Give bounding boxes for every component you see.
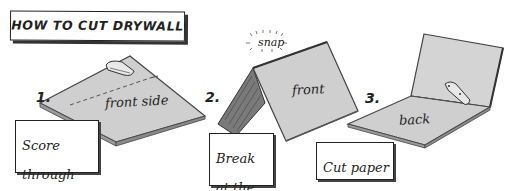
step-3-note: Cut paper in back. bbox=[316, 142, 394, 180]
step2-board bbox=[218, 42, 358, 141]
step-1-note: Score through paper only bbox=[15, 120, 99, 173]
step-2-note-line-1: Break bbox=[216, 152, 269, 167]
step-1-note-line-2: through bbox=[22, 168, 94, 183]
step-2-note: Break at the score. bbox=[209, 133, 274, 186]
page-title: HOW TO CUT DRYWALL bbox=[11, 17, 184, 33]
step-1-number: 1. bbox=[36, 89, 51, 105]
title-banner: HOW TO CUT DRYWALL bbox=[10, 10, 185, 41]
step-3-number: 3. bbox=[365, 90, 380, 106]
step-3-note-line-2: in back. bbox=[323, 190, 389, 191]
step-2-board-label: front bbox=[292, 81, 325, 98]
step-2-note-line-2: at the bbox=[216, 181, 269, 191]
step-2-number: 2. bbox=[205, 89, 220, 105]
step-3-note-line-1: Cut paper bbox=[323, 161, 389, 176]
snap-sound-label: snap bbox=[258, 36, 284, 49]
step-1-note-line-1: Score bbox=[22, 139, 94, 154]
step-3-board-label: back bbox=[399, 111, 431, 128]
